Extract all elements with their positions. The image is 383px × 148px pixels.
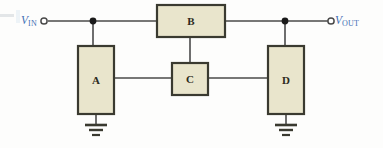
vin-label-subscript: IN <box>28 19 37 28</box>
vin-label: VIN <box>21 15 37 28</box>
figure-canvas: A B C D VIN VOUT <box>0 0 383 148</box>
ground-symbol-a <box>85 125 107 135</box>
ground-symbol-d <box>275 125 297 135</box>
junction-node-input <box>90 18 97 25</box>
vin-terminal-icon[interactable] <box>41 18 47 24</box>
vout-terminal-icon[interactable] <box>328 18 334 24</box>
block-b-label: B <box>187 16 194 27</box>
block-d-label: D <box>282 75 290 86</box>
junction-node-output <box>282 18 289 25</box>
block-a-label: A <box>92 75 100 86</box>
vin-label-symbol: V <box>21 14 28 26</box>
vout-label: VOUT <box>335 15 359 28</box>
block-c-label: C <box>186 74 194 85</box>
vout-label-symbol: V <box>335 14 342 26</box>
vout-label-subscript: OUT <box>342 19 359 28</box>
